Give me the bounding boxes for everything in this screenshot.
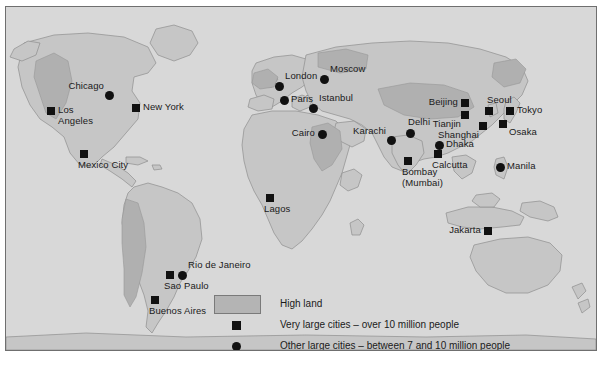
circle-marker-icon bbox=[496, 163, 505, 172]
circle-marker-icon bbox=[105, 91, 114, 100]
world-cities-map-figure: ChicagoNew YorkLos AngelesMexico CityRio… bbox=[0, 0, 606, 378]
city-label: Manila bbox=[507, 161, 536, 172]
square-marker-icon bbox=[485, 107, 493, 115]
square-marker-icon bbox=[461, 99, 469, 107]
city-label: Buenos Aires bbox=[149, 306, 206, 317]
circle-marker-icon bbox=[435, 141, 444, 150]
square-marker-icon bbox=[151, 296, 159, 304]
highland-swatch-icon bbox=[214, 295, 261, 314]
circle-marker-icon bbox=[406, 129, 415, 138]
city-label: Los Angeles bbox=[58, 105, 93, 126]
hispaniola bbox=[152, 165, 162, 170]
city-label: Calcutta bbox=[432, 160, 468, 171]
city-label: Osaka bbox=[509, 127, 537, 138]
city-label: London bbox=[285, 71, 317, 82]
legend-label-highland: High land bbox=[280, 298, 322, 309]
square-marker-icon bbox=[232, 321, 241, 330]
square-marker-icon bbox=[80, 150, 88, 158]
city-label: Paris bbox=[291, 94, 313, 105]
city-label: Moscow bbox=[330, 64, 365, 75]
square-marker-icon bbox=[47, 107, 55, 115]
legend-label-very-large-cities: Very large cities – over 10 million peop… bbox=[280, 319, 459, 330]
city-label: Chicago bbox=[68, 81, 104, 92]
square-marker-icon bbox=[461, 111, 469, 119]
city-label: Dhaka bbox=[446, 139, 474, 150]
legend-label-other-large-cities: Other large cities – between 7 and 10 mi… bbox=[280, 340, 510, 351]
city-label: Shanghai bbox=[438, 130, 479, 141]
circle-marker-icon bbox=[309, 104, 318, 113]
city-label: Sao Paulo bbox=[164, 281, 209, 292]
legend-row-very-large-cities: Very large cities – over 10 million peop… bbox=[214, 316, 584, 337]
square-marker-icon bbox=[266, 194, 274, 202]
city-label: Cairo bbox=[292, 128, 315, 139]
city-label: Jakarta bbox=[449, 225, 481, 236]
city-label: Beijing bbox=[429, 97, 458, 108]
city-label: Tokyo bbox=[517, 105, 542, 116]
square-marker-icon bbox=[132, 104, 140, 112]
circle-marker-icon bbox=[232, 342, 241, 351]
square-marker-icon bbox=[434, 150, 442, 158]
legend-row-highland: High land bbox=[214, 295, 584, 316]
circle-marker-icon bbox=[320, 75, 329, 84]
circle-marker-icon bbox=[318, 130, 327, 139]
city-label: Delhi bbox=[408, 117, 430, 128]
map-legend: High land Very large cities – over 10 mi… bbox=[214, 295, 584, 351]
city-label: New York bbox=[143, 102, 184, 113]
city-label: Istanbul bbox=[319, 93, 353, 104]
circle-marker-icon bbox=[275, 82, 284, 91]
city-label: Karachi bbox=[353, 126, 386, 137]
square-marker-icon bbox=[404, 157, 412, 165]
city-label: Rio de Janeiro bbox=[188, 260, 251, 271]
city-label: Mexico City bbox=[78, 160, 128, 171]
city-label: Seoul bbox=[487, 95, 512, 106]
circle-marker-icon bbox=[387, 136, 396, 145]
square-marker-icon bbox=[506, 107, 514, 115]
city-label: Tianjin bbox=[433, 119, 461, 130]
square-marker-icon bbox=[479, 122, 487, 130]
square-marker-icon bbox=[499, 120, 507, 128]
map-plate: ChicagoNew YorkLos AngelesMexico CityRio… bbox=[5, 6, 597, 351]
square-marker-icon bbox=[166, 271, 174, 279]
square-marker-icon bbox=[484, 227, 492, 235]
legend-row-other-large-cities: Other large cities – between 7 and 10 mi… bbox=[214, 337, 584, 351]
circle-marker-icon bbox=[178, 271, 187, 280]
city-label: Lagos bbox=[264, 204, 290, 215]
circle-marker-icon bbox=[280, 96, 289, 105]
